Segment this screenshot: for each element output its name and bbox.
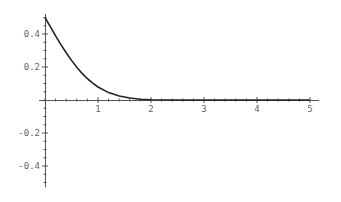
line-chart: 123450.40.2-0.2-0.4 xyxy=(0,0,341,202)
data-curve xyxy=(45,18,310,101)
x-tick-label: 2 xyxy=(148,104,153,114)
y-tick-label: -0.2 xyxy=(18,128,40,138)
y-tick-label: 0.2 xyxy=(24,62,40,72)
x-tick-label: 1 xyxy=(95,104,100,114)
y-tick-label: 0.4 xyxy=(24,29,40,39)
y-tick-label: -0.4 xyxy=(18,161,40,171)
x-tick-label: 3 xyxy=(201,104,206,114)
x-tick-label: 5 xyxy=(307,104,312,114)
x-tick-label: 4 xyxy=(254,104,259,114)
